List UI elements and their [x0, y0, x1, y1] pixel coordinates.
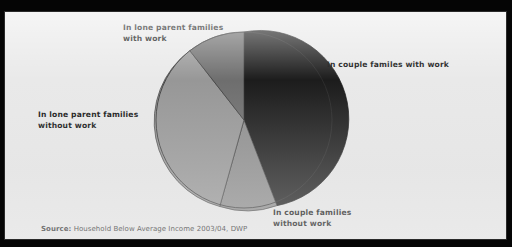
chart-panel: In lone parent families with work In cou…: [4, 11, 507, 240]
pie-label-lone-parent-with-work: In lone parent families with work: [123, 23, 258, 44]
source-value: Household Below Average Income 2003/04, …: [74, 225, 248, 233]
pie-chart: In lone parent families with work In cou…: [5, 12, 506, 239]
pie-label-couple-with-work: In couple familes with work: [327, 60, 502, 71]
pie-label-couple-without-work: In couple families without work: [273, 208, 408, 229]
screenshot-root: In lone parent families with work In cou…: [0, 0, 512, 247]
pie-label-lone-parent-without-work: In lone parent families without work: [38, 110, 178, 131]
source-note: Source: Household Below Average Income 2…: [41, 225, 247, 233]
scan-frame: In lone parent families with work In cou…: [0, 0, 512, 247]
source-label: Source:: [41, 225, 71, 233]
